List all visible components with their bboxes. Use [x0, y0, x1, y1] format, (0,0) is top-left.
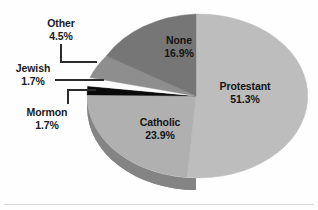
leader-line-other: [61, 44, 97, 62]
slice-label-other: Other 4.5%: [25, 17, 97, 42]
slice-label-mormon-name: Mormon: [7, 106, 87, 119]
slice-label-protestant-percent: 51.3%: [205, 93, 285, 106]
slice-label-catholic-percent: 23.9%: [122, 129, 198, 142]
slice-label-other-name: Other: [25, 17, 97, 30]
bottom-rule: [4, 204, 314, 205]
slice-label-none: None 16.9%: [145, 34, 213, 59]
slice-label-catholic-name: Catholic: [122, 116, 198, 129]
slice-label-catholic: Catholic 23.9%: [122, 116, 198, 141]
slice-label-jewish: Jewish 1.7%: [2, 62, 64, 87]
pie-chart-figure: None 16.9% Protestant 51.3% Catholic 23.…: [0, 0, 318, 210]
slice-label-mormon-percent: 1.7%: [7, 119, 87, 132]
slice-label-other-percent: 4.5%: [25, 30, 97, 43]
slice-label-mormon: Mormon 1.7%: [7, 106, 87, 131]
slice-label-protestant: Protestant 51.3%: [205, 80, 285, 105]
slice-label-jewish-name: Jewish: [2, 62, 64, 75]
slice-label-jewish-percent: 1.7%: [2, 75, 64, 88]
slice-label-none-name: None: [145, 34, 213, 47]
slice-label-protestant-name: Protestant: [205, 80, 285, 93]
slice-label-none-percent: 16.9%: [145, 47, 213, 60]
